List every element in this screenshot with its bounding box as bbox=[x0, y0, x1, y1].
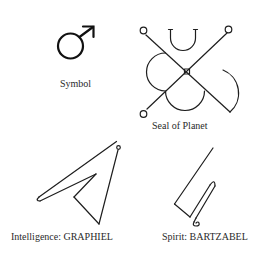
spirit-label: Spirit: BARTZABEL bbox=[162, 231, 248, 242]
sigil-graphiel-icon bbox=[37, 142, 120, 225]
seal-of-mars-icon bbox=[140, 26, 238, 117]
mars-symbol-icon bbox=[58, 27, 94, 59]
intelligence-label: Intelligence: GRAPHIEL bbox=[11, 231, 113, 242]
sigil-bartzabel-icon bbox=[175, 148, 216, 226]
sigil-drawings bbox=[0, 0, 267, 254]
symbol-label: Symbol bbox=[60, 78, 91, 89]
seal-label: Seal of Planet bbox=[152, 120, 208, 131]
